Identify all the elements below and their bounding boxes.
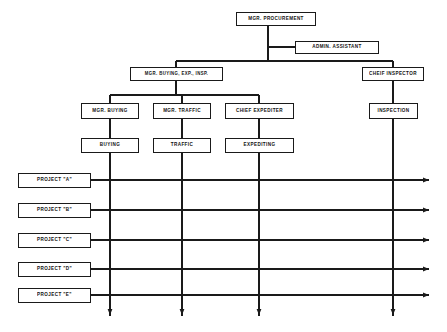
node-label: PROJECT "E" <box>37 293 72 299</box>
node-mgr-procurement[interactable]: MGR. PROCUREMENT <box>236 12 316 26</box>
node-project-c[interactable]: PROJECT "C" <box>18 233 91 248</box>
node-inspection[interactable]: INSPECTION <box>369 103 418 119</box>
node-mgr-buying-exp-insp[interactable]: MGR. BUYING, EXP., INSP. <box>130 67 223 81</box>
node-buying[interactable]: BUYING <box>81 138 139 153</box>
node-label: EXPEDITING <box>244 143 276 149</box>
node-label: ADMIN. ASSISTANT <box>312 45 362 51</box>
node-admin-assistant[interactable]: ADMIN. ASSISTANT <box>295 41 379 54</box>
node-mgr-buying[interactable]: MGR. BUYING <box>81 103 139 119</box>
node-label: PROJECT "A" <box>37 178 72 184</box>
connector-lines <box>0 0 447 332</box>
node-project-e[interactable]: PROJECT "E" <box>18 288 91 303</box>
node-project-b[interactable]: PROJECT "B" <box>18 203 91 218</box>
node-label: PROJECT "B" <box>37 208 72 214</box>
node-label: CHIEF EXPEDITER <box>236 108 283 114</box>
node-project-d[interactable]: PROJECT "D" <box>18 262 91 277</box>
node-label: MGR. BUYING, EXP., INSP. <box>145 71 208 76</box>
org-chart-diagram: MGR. PROCUREMENT ADMIN. ASSISTANT MGR. B… <box>0 0 447 332</box>
node-label: PROJECT "C" <box>37 238 72 244</box>
node-label: CHEIF INSPECTOR <box>369 71 417 77</box>
node-label: PROJECT "D" <box>37 267 72 273</box>
node-label: BUYING <box>100 143 120 149</box>
node-label: TRAFFIC <box>171 143 193 149</box>
node-traffic[interactable]: TRAFFIC <box>153 138 211 153</box>
node-chief-expediter[interactable]: CHIEF EXPEDITER <box>225 103 294 119</box>
node-label: INSPECTION <box>377 108 409 114</box>
node-cheif-inspector[interactable]: CHEIF INSPECTOR <box>362 67 424 81</box>
node-project-a[interactable]: PROJECT "A" <box>18 173 91 188</box>
node-label: MGR. TRAFFIC <box>163 108 201 114</box>
node-label: MGR. BUYING <box>92 108 128 114</box>
node-expediting[interactable]: EXPEDITING <box>225 138 294 153</box>
node-label: MGR. PROCUREMENT <box>248 16 304 22</box>
node-mgr-traffic[interactable]: MGR. TRAFFIC <box>153 103 211 119</box>
